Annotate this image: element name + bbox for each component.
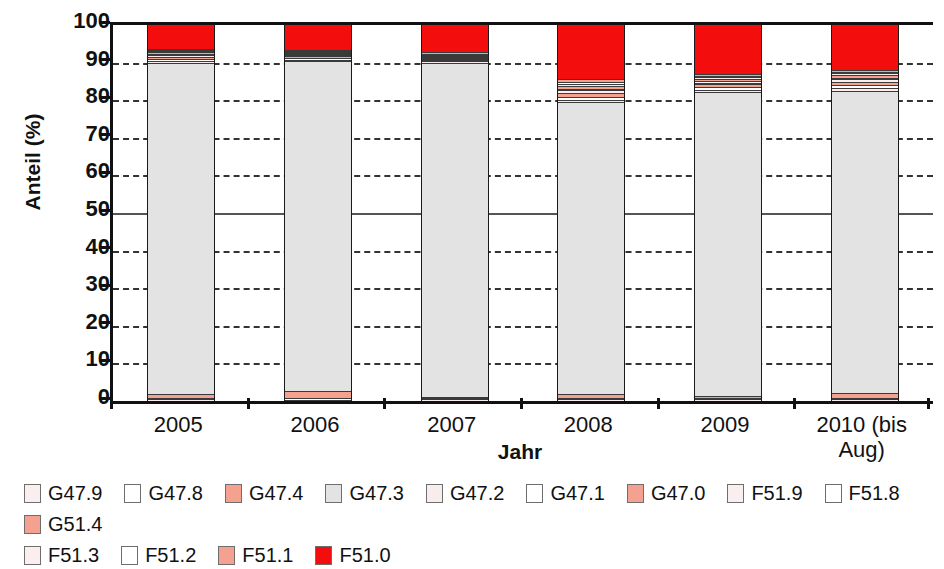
legend-label: G47.0	[651, 482, 705, 505]
bar-segment[interactable]	[285, 25, 351, 50]
bar-segment[interactable]	[285, 61, 351, 391]
bar-segment[interactable]	[832, 91, 898, 394]
bar-segment[interactable]	[695, 92, 761, 396]
y-tick-mark	[99, 321, 110, 324]
legend-swatch	[315, 546, 332, 565]
y-axis-ticks: 0102030405060708090100	[42, 22, 110, 398]
x-axis-ticks	[110, 398, 933, 410]
x-tick-label: 2006	[247, 412, 384, 437]
bar-segment[interactable]	[422, 63, 488, 397]
bar-stack	[421, 25, 489, 401]
y-tick-mark	[99, 246, 110, 249]
legend-label: F51.8	[849, 482, 900, 505]
y-tick-mark	[99, 133, 110, 136]
legend-item[interactable]: G47.4	[225, 482, 303, 504]
x-tick-mark	[927, 398, 930, 409]
bar-column[interactable]	[421, 25, 489, 401]
legend-swatch	[124, 484, 141, 503]
x-tick-label: 2009	[657, 412, 794, 437]
bar-segment[interactable]	[148, 25, 214, 49]
legend-item[interactable]: G47.0	[627, 482, 705, 504]
x-tick-label: 2008	[520, 412, 657, 437]
legend-swatch	[426, 484, 443, 503]
y-tick-mark	[99, 397, 110, 400]
bar-segment[interactable]	[422, 25, 488, 52]
legend-item[interactable]: F51.0	[315, 544, 390, 566]
bar-segment[interactable]	[695, 25, 761, 74]
bar-stack	[557, 25, 625, 401]
legend-label: G51.4	[48, 513, 102, 536]
legend-label: F51.0	[339, 544, 390, 567]
bar-segment[interactable]	[148, 63, 214, 395]
legend-item[interactable]: G47.1	[526, 482, 604, 504]
legend-item[interactable]: F51.1	[218, 544, 293, 566]
legend-swatch	[218, 546, 235, 565]
y-tick-mark	[99, 96, 110, 99]
y-tick-mark	[99, 21, 110, 24]
legend-item[interactable]: F51.2	[121, 544, 196, 566]
x-tick-mark	[110, 398, 113, 409]
legend-item[interactable]: F51.9	[727, 482, 802, 504]
bar-segment[interactable]	[558, 102, 624, 393]
x-tick-mark	[657, 398, 660, 409]
x-tick-mark	[520, 398, 523, 409]
bar-column[interactable]	[694, 25, 762, 401]
x-tick-mark	[793, 398, 796, 409]
legend-swatch	[526, 484, 543, 503]
legend-swatch	[24, 515, 41, 534]
x-tick-label: 2007	[383, 412, 520, 437]
legend-item[interactable]: G51.4	[24, 513, 102, 535]
legend-swatch	[825, 484, 842, 503]
y-tick-mark	[99, 171, 110, 174]
legend-swatch	[24, 484, 41, 503]
legend-swatch	[225, 484, 242, 503]
legend-item[interactable]: G47.3	[325, 482, 403, 504]
legend-item[interactable]: F51.8	[825, 482, 900, 504]
legend-label: F51.3	[48, 544, 99, 567]
plot-area	[110, 22, 933, 404]
legend-item[interactable]: F51.3	[24, 544, 99, 566]
bar-segment[interactable]	[558, 25, 624, 79]
x-tick-label: 2005	[110, 412, 247, 437]
legend-swatch	[121, 546, 138, 565]
legend-label: F51.1	[242, 544, 293, 567]
legend-label: F51.9	[751, 482, 802, 505]
legend-label: G47.1	[550, 482, 604, 505]
legend-item[interactable]: G47.2	[426, 482, 504, 504]
legend-item[interactable]: G47.9	[24, 482, 102, 504]
bar-stack	[147, 25, 215, 401]
x-axis-title: Jahr	[110, 440, 930, 464]
bar-stack	[284, 25, 352, 401]
y-tick-mark	[99, 359, 110, 362]
legend-label: G47.8	[148, 482, 202, 505]
legend-label: F51.2	[145, 544, 196, 567]
legend-label: G47.9	[48, 482, 102, 505]
y-tick-mark	[99, 284, 110, 287]
bar-column[interactable]	[147, 25, 215, 401]
bar-segment[interactable]	[832, 25, 898, 70]
legend: G47.9G47.8G47.4G47.3G47.2G47.1G47.0F51.9…	[24, 482, 940, 569]
x-tick-mark	[247, 398, 250, 409]
legend-swatch	[24, 546, 41, 565]
bar-column[interactable]	[284, 25, 352, 401]
x-tick-mark	[383, 398, 386, 409]
legend-label: G47.4	[249, 482, 303, 505]
legend-swatch	[727, 484, 744, 503]
y-tick-mark	[99, 209, 110, 212]
legend-swatch	[627, 484, 644, 503]
legend-label: G47.2	[450, 482, 504, 505]
y-tick-mark	[99, 58, 110, 61]
bar-column[interactable]	[557, 25, 625, 401]
bar-stack	[694, 25, 762, 401]
bar-column[interactable]	[831, 25, 899, 401]
legend-swatch	[325, 484, 342, 503]
legend-item[interactable]: G47.8	[124, 482, 202, 504]
legend-label: G47.3	[349, 482, 403, 505]
bars-container	[113, 25, 933, 401]
bar-stack	[831, 25, 899, 401]
